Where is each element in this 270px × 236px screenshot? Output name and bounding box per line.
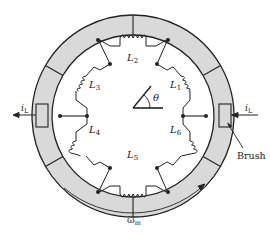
label-l2: L2 [126,52,138,65]
coil-l6 [157,116,197,168]
label-current-right: iL [245,103,253,115]
label-l1: L1 [169,79,181,92]
dc-machine-diagram: L2 L3 L1 L4 L6 L5 θ iL iL Brush ωm [0,0,270,236]
brush-right [219,104,231,127]
current-arrow-right [231,113,258,118]
label-theta: θ [153,92,159,103]
coil-l3 [76,64,110,116]
label-l5: L5 [126,149,138,162]
label-l3: L3 [88,79,100,92]
brush-left [36,104,48,127]
coil-links-bottom [98,168,168,193]
label-l6: L6 [169,124,182,137]
label-current-left: iL [21,103,29,115]
label-l4: L4 [88,124,101,137]
label-brush: Brush [237,150,266,161]
